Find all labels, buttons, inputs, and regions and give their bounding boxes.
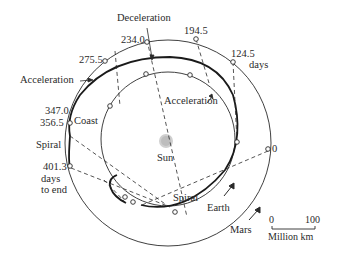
label-deceleration: Deceleration <box>117 12 171 23</box>
label-t0: 0 <box>272 143 277 154</box>
label-t401-unit1: days <box>41 173 60 184</box>
label-t124-unit: days <box>249 59 268 70</box>
label-acceleration-right: Acceleration <box>164 95 218 106</box>
label-spiral-left: Spiral <box>36 139 61 150</box>
scale-start: 0 <box>269 214 274 225</box>
label-spiral-bottom: Spiral <box>173 192 198 203</box>
label-t347: 347.0 <box>45 105 69 116</box>
label-coast: Coast <box>74 115 98 126</box>
scale-bar: 0 100 Million km <box>268 214 320 242</box>
label-t356: 356.5 <box>40 117 64 128</box>
label-t401: 401.3 <box>43 161 67 172</box>
label-earth: Earth <box>207 202 230 213</box>
label-t194: 194.5 <box>184 25 208 36</box>
label-acceleration-left: Acceleration <box>20 74 74 85</box>
trajectory-path <box>69 57 238 207</box>
scale-end: 100 <box>305 214 320 225</box>
label-t275: 275.5 <box>79 54 103 65</box>
label-t234: 234.0 <box>121 34 145 45</box>
label-mars: Mars <box>230 224 252 235</box>
label-t124: 124.5 <box>231 48 255 59</box>
orbit-transfer-diagram: Deceleration Acceleration Acceleration C… <box>0 0 347 260</box>
label-sun: Sun <box>157 152 174 163</box>
scale-unit: Million km <box>268 231 314 242</box>
label-t401-unit2: to end <box>41 184 68 195</box>
